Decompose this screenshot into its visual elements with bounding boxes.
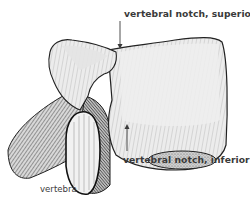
label-vertebral-notch-inferior: vertebral notch, inferior	[123, 155, 250, 164]
leader-superior	[118, 21, 123, 49]
label-vertebral-notch-superior: vertebral notch, superior	[124, 9, 250, 18]
vertebra-diagram: vertebral notch, superior vertebral notc…	[0, 0, 250, 207]
articular-facet	[66, 112, 100, 194]
label-vertebra: vertebra	[40, 185, 77, 194]
vertebral-body	[108, 38, 227, 170]
vertebra-illustration	[0, 0, 250, 207]
